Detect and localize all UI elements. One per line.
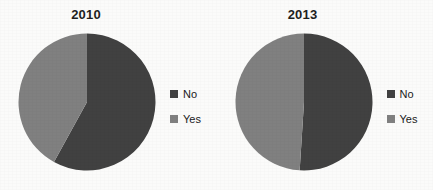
pie-slice-yes[interactable] <box>235 34 303 171</box>
legend-label-yes: Yes <box>183 113 201 125</box>
legend-item-no[interactable]: No <box>170 84 216 104</box>
pie-chart-figure: 2010 No Yes 2013 N <box>0 0 433 190</box>
legend-label-yes: Yes <box>400 113 418 125</box>
legend-swatch-no <box>170 90 178 98</box>
chart-panel-2010: 2010 No Yes <box>0 0 217 190</box>
pie-svg-2013 <box>235 33 373 171</box>
pie-chart-2013 <box>235 33 373 171</box>
chart-title-2013: 2013 <box>217 7 389 22</box>
pie-svg-2010 <box>18 33 156 171</box>
legend-swatch-yes <box>170 115 178 123</box>
legend-swatch-no <box>387 90 395 98</box>
legend-swatch-yes <box>387 115 395 123</box>
legend-label-no: No <box>400 88 414 100</box>
legend-item-yes[interactable]: Yes <box>170 109 216 129</box>
legend-item-no[interactable]: No <box>387 84 433 104</box>
legend-2010: No Yes <box>170 84 216 134</box>
chart-panel-2013: 2013 No Yes <box>217 0 433 190</box>
legend-item-yes[interactable]: Yes <box>387 109 433 129</box>
pie-chart-2010 <box>18 33 156 171</box>
legend-label-no: No <box>183 88 197 100</box>
legend-2013: No Yes <box>387 84 433 134</box>
chart-title-2010: 2010 <box>0 7 172 22</box>
pie-slice-no[interactable] <box>299 34 372 171</box>
